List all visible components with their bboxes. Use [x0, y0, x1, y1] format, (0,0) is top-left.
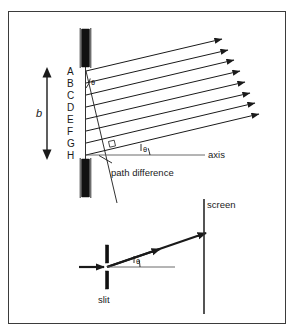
point-label-layer: A B C D E F G H b θ θ axis path differen… — [0, 0, 296, 335]
source-point-label-G: G — [67, 138, 75, 149]
source-point-label-F: F — [67, 126, 73, 137]
slit-label: slit — [98, 294, 110, 305]
source-point-label-D: D — [67, 102, 74, 113]
theta-label-axis: θ — [143, 145, 147, 154]
slit-width-label: b — [36, 107, 42, 119]
screen-label: screen — [207, 199, 236, 210]
source-point-label-C: C — [67, 90, 74, 101]
source-point-label-E: E — [67, 114, 74, 125]
figure-root: A B C D E F G H b θ θ axis path differen… — [0, 0, 296, 335]
source-point-label-H: H — [67, 150, 74, 161]
source-point-label-A: A — [67, 66, 74, 77]
axis-label: axis — [208, 149, 225, 160]
theta-label-slit: θ — [91, 78, 95, 87]
theta-label-lower: θ — [136, 257, 140, 266]
source-point-label-B: B — [67, 78, 74, 89]
path-difference-label: path difference — [111, 167, 174, 178]
